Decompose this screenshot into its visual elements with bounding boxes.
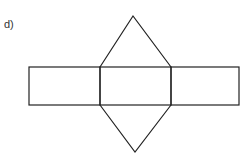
right-face <box>171 67 239 105</box>
middle-face <box>100 67 171 105</box>
bottom-triangle <box>100 105 171 152</box>
left-face <box>29 67 100 105</box>
top-triangle <box>100 16 171 67</box>
prism-net-diagram <box>0 0 248 162</box>
